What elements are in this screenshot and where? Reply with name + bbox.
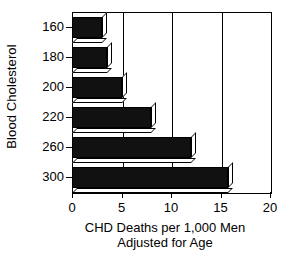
y-axis-tick-mark (66, 117, 72, 118)
y-axis-title: Blood Cholesterol (0, 0, 22, 192)
bar-3d-bottom-face (72, 98, 127, 103)
x-axis-title-line1: CHD Deaths per 1,000 Men (40, 220, 290, 235)
y-axis-tick-mark (66, 177, 72, 178)
bar-front-face (72, 107, 151, 128)
x-axis-tick-label: 20 (250, 201, 290, 215)
x-axis-tick-label: 0 (52, 201, 92, 215)
x-axis-tick-label: 15 (201, 201, 241, 215)
x-axis-title: CHD Deaths per 1,000 Men Adjusted for Ag… (40, 220, 290, 250)
bar-3d-bottom-face (72, 188, 233, 193)
y-axis-tick-labels: 160180200220260300 (22, 0, 64, 192)
y-axis-tick-label: 260 (26, 140, 64, 153)
x-axis-tick-mark (171, 192, 172, 198)
bar-front-face (72, 77, 122, 98)
y-axis-tick-mark (66, 87, 72, 88)
y-axis-tick-mark (66, 147, 72, 148)
x-axis-tick-label: 10 (151, 201, 191, 215)
x-axis-tick-mark (72, 192, 73, 198)
y-axis-tick-label: 160 (26, 20, 64, 33)
y-axis-tick-label: 180 (26, 50, 64, 63)
y-axis-tick-label: 300 (26, 170, 64, 183)
bar-3d-side-face (102, 12, 107, 38)
bar-front-face (72, 47, 107, 68)
y-axis-title-text: Blood Cholesterol (4, 44, 19, 148)
bar-3d-bottom-face (72, 158, 196, 163)
bar-3d-side-face (191, 132, 196, 158)
x-axis-title-line2: Adjusted for Age (40, 235, 290, 250)
bar-3d-side-face (107, 42, 112, 68)
x-axis-tick-mark (270, 192, 271, 198)
y-axis-tick-label: 200 (26, 80, 64, 93)
bar-chart: Blood Cholesterol 160180200220260300 CHD… (0, 0, 299, 260)
bar-3d-bottom-face (72, 68, 112, 73)
x-axis-tick-mark (221, 192, 222, 198)
y-axis-tick-mark (66, 57, 72, 58)
x-axis-tick-mark (122, 192, 123, 198)
bar-3d-bottom-face (72, 128, 156, 133)
bar-front-face (72, 17, 102, 38)
x-axis-tick-label: 5 (102, 201, 142, 215)
bar-3d-side-face (122, 72, 127, 98)
y-axis-tick-mark (66, 27, 72, 28)
bar-front-face (72, 167, 228, 188)
y-axis-tick-label: 220 (26, 110, 64, 123)
bar-3d-bottom-face (72, 38, 107, 43)
bar-front-face (72, 137, 191, 158)
